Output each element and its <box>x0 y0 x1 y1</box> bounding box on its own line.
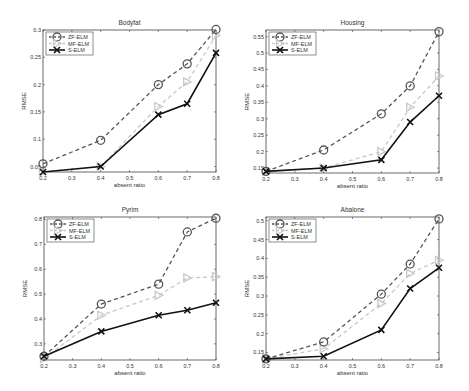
legend: ZF-ELMMF-ELMS-ELM <box>46 32 93 55</box>
y-tick-label: 0.1 <box>33 136 41 142</box>
y-axis-label: RMSE <box>244 280 250 297</box>
y-tick-label: 0.25 <box>30 54 41 60</box>
legend-label: MF-ELM <box>69 228 91 234</box>
y-tick-label: 0.3 <box>256 116 264 122</box>
legend-label: S-ELM <box>69 234 86 240</box>
legend: ZF-ELMMF-ELMS-ELM <box>47 219 94 242</box>
x-tick-label: 0.2 <box>262 176 270 182</box>
x-axis-label: absent ratio <box>337 370 369 376</box>
legend-label: S-ELM <box>68 47 85 53</box>
y-tick-label: 0.5 <box>256 218 264 224</box>
x-tick-label: 0.6 <box>155 175 163 181</box>
legend-label: ZF-ELM <box>69 221 89 227</box>
x-tick-label: 0.8 <box>435 363 443 369</box>
legend-label: MF-ELM <box>291 228 313 234</box>
y-axis-label: RMSE <box>244 93 250 110</box>
x-tick-label: 0.3 <box>291 176 299 182</box>
legend-label: MF-ELM <box>68 41 90 47</box>
y-tick-label: 0.4 <box>256 255 264 261</box>
x-tick-label: 0.5 <box>126 363 134 369</box>
chart-housing: Housing0.20.30.40.50.60.70.80.150.20.250… <box>235 0 469 199</box>
y-tick-label: 0.5 <box>34 291 42 297</box>
y-tick-label: 0.3 <box>256 293 264 299</box>
chart-title: Bodyfat <box>118 19 140 27</box>
y-tick-label: 0.5 <box>256 50 264 56</box>
x-tick-label: 0.2 <box>262 363 270 369</box>
y-tick-label: 0.25 <box>253 132 264 138</box>
legend: ZF-ELMMF-ELMS-ELM <box>269 32 316 55</box>
chart-title: Housing <box>341 19 365 27</box>
y-tick-label: 0.2 <box>256 331 264 337</box>
y-tick-label: 0.45 <box>253 237 264 243</box>
legend-item-s-elm: S-ELM <box>272 234 308 240</box>
y-tick-label: 0.35 <box>253 99 264 105</box>
legend-label: ZF-ELM <box>291 221 311 227</box>
x-tick-label: 0.4 <box>320 363 328 369</box>
chart-pyrim: Pyrim0.20.30.40.50.60.70.80.30.40.50.60.… <box>0 195 235 391</box>
x-tick-label: 0.3 <box>69 363 77 369</box>
y-tick-label: 0.2 <box>256 149 264 155</box>
y-tick-label: 0.35 <box>253 274 264 280</box>
x-tick-label: 0.8 <box>212 363 220 369</box>
x-axis-label: absent ratio <box>114 370 146 376</box>
y-tick-label: 0.3 <box>33 27 41 33</box>
legend-label: S-ELM <box>291 47 308 53</box>
x-tick-label: 0.2 <box>40 363 48 369</box>
legend-label: MF-ELM <box>291 41 313 47</box>
x-tick-label: 0.6 <box>155 363 163 369</box>
x-tick-label: 0.7 <box>183 175 191 181</box>
y-tick-label: 0.3 <box>34 341 42 347</box>
x-tick-label: 0.4 <box>98 363 106 369</box>
y-axis-label: RMSE <box>22 280 28 297</box>
x-tick-label: 0.5 <box>349 363 357 369</box>
x-axis-label: absent ratio <box>337 183 369 189</box>
x-axis-label: absent ratio <box>114 182 146 188</box>
legend-label: S-ELM <box>291 234 308 240</box>
x-tick-label: 0.3 <box>68 175 76 181</box>
x-tick-label: 0.7 <box>184 363 192 369</box>
x-tick-label: 0.8 <box>435 176 443 182</box>
y-tick-label: 0.6 <box>34 266 42 272</box>
x-tick-label: 0.3 <box>291 363 299 369</box>
y-tick-label: 0.15 <box>30 109 41 115</box>
x-tick-label: 0.8 <box>212 175 220 181</box>
y-axis-label: RMSE <box>21 92 27 109</box>
chart-title: Abalone <box>341 206 365 213</box>
x-tick-label: 0.7 <box>406 363 414 369</box>
legend-item-s-elm: S-ELM <box>272 47 308 53</box>
y-tick-label: 0.55 <box>253 34 264 40</box>
x-tick-label: 0.5 <box>126 175 134 181</box>
x-tick-label: 0.5 <box>349 176 357 182</box>
chart-title: Pyrim <box>122 206 139 214</box>
legend-item-s-elm: S-ELM <box>49 47 85 53</box>
legend-label: ZF-ELM <box>291 34 311 40</box>
y-tick-label: 0.2 <box>33 82 41 88</box>
y-tick-label: 0.4 <box>34 316 42 322</box>
chart-abalone: Abalone0.20.30.40.50.60.70.80.150.20.250… <box>235 195 469 391</box>
y-tick-label: 0.7 <box>34 241 42 247</box>
y-tick-label: 0.45 <box>253 66 264 72</box>
legend-label: ZF-ELM <box>68 34 88 40</box>
x-tick-label: 0.6 <box>378 176 386 182</box>
y-tick-label: 0.8 <box>34 216 42 222</box>
x-tick-label: 0.7 <box>406 176 414 182</box>
legend: ZF-ELMMF-ELMS-ELM <box>269 219 316 242</box>
y-tick-label: 0.4 <box>256 83 264 89</box>
legend-item-s-elm: S-ELM <box>50 234 86 240</box>
y-tick-label: 0.25 <box>253 312 264 318</box>
chart-bodyfat: Bodyfat0.20.30.40.50.60.70.80.050.10.150… <box>0 0 235 199</box>
x-tick-label: 0.4 <box>97 175 105 181</box>
x-tick-label: 0.6 <box>378 363 386 369</box>
x-tick-label: 0.4 <box>320 176 328 182</box>
